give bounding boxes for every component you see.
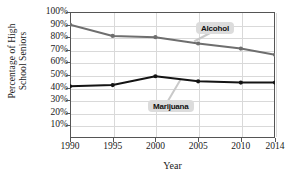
data-point-marijuana: [111, 83, 115, 87]
series-label-marijuana: Marijuana: [148, 100, 194, 112]
y-tick-label: 60%: [34, 57, 68, 67]
data-point-alcohol: [196, 41, 200, 45]
series-layer: [70, 12, 275, 138]
y-tick-label: 40%: [34, 83, 68, 93]
x-axis-title: Year: [70, 160, 275, 171]
x-tick-mark: [155, 138, 156, 142]
data-point-alcohol: [239, 46, 243, 50]
callout-leader-line: [194, 33, 210, 42]
series-label-alcohol: Alcohol: [196, 22, 234, 34]
data-point-marijuana: [196, 79, 200, 83]
data-point-alcohol: [273, 53, 275, 57]
data-point-marijuana: [153, 74, 157, 78]
data-point-marijuana: [273, 80, 275, 84]
x-tick-mark: [198, 138, 199, 142]
x-tick-label: 2014: [255, 141, 285, 151]
x-tick-mark: [113, 138, 114, 142]
x-tick-mark: [241, 138, 242, 142]
data-point-marijuana: [239, 80, 243, 84]
line-chart: Percentage of High School Seniors 100%90…: [0, 0, 285, 178]
y-tick-label: 10%: [34, 120, 68, 130]
x-tick-label: 1995: [93, 141, 133, 151]
x-tick-label: 2000: [135, 141, 175, 151]
x-tick-mark: [275, 138, 276, 142]
gridline-vertical: [276, 13, 277, 137]
y-axis-title: Percentage of High School Seniors: [7, 0, 29, 131]
data-point-alcohol: [153, 35, 157, 39]
x-tick-label: 2005: [178, 141, 218, 151]
y-tick-label: 80%: [34, 32, 68, 42]
y-tick-label: 50%: [34, 70, 68, 80]
data-point-marijuana: [70, 84, 72, 88]
y-tick-label: 70%: [34, 45, 68, 55]
y-tick-label: 30%: [34, 95, 68, 105]
y-tick-label: 100%: [34, 7, 68, 17]
y-tick-label: 20%: [34, 108, 68, 118]
series-line-alcohol: [70, 25, 275, 55]
series-line-marijuana: [70, 76, 275, 86]
x-tick-mark: [70, 138, 71, 142]
y-tick-label: 90%: [34, 20, 68, 30]
x-tick-label: 1990: [50, 141, 90, 151]
data-point-alcohol: [111, 34, 115, 38]
